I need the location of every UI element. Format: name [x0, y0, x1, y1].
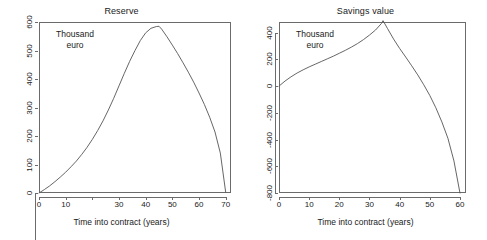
- y-tick-label: 600: [25, 7, 35, 37]
- x-tickmark: [92, 197, 93, 200]
- figure-two-panel-line-charts: Reserve Thousandeuro 0100200300400500600…: [0, 0, 487, 240]
- chart-panel-savings-value: Savings value Thousandeuro 4002000-200-4…: [244, 0, 487, 240]
- y-tick-label: 500: [25, 36, 35, 66]
- y-tickmark: [275, 86, 278, 87]
- x-tick-label: 70: [214, 200, 238, 209]
- x-tickmark: [146, 197, 147, 200]
- y-tick-label: 300: [25, 93, 35, 123]
- annotation-line-1: Thousand: [285, 29, 345, 40]
- x-axis-label-reserve: Time into contract (years): [0, 217, 243, 227]
- x-tickmark: [339, 197, 340, 200]
- x-tickmark: [199, 197, 200, 200]
- y-tick-label: -200: [265, 98, 275, 128]
- annotation-line-2: euro: [285, 40, 345, 51]
- y-tickmark: [275, 140, 278, 141]
- annotation-line-1: Thousand: [45, 29, 105, 40]
- x-tick-label: 50: [418, 200, 442, 209]
- x-tick-label: 10: [54, 200, 78, 209]
- y-tickmark: [275, 193, 278, 194]
- x-tickmark: [39, 197, 40, 200]
- x-tick-label: 0: [27, 200, 51, 209]
- x-tickmark: [430, 197, 431, 200]
- y-tick-label: 200: [25, 121, 35, 151]
- x-tick-label: 10: [297, 200, 321, 209]
- x-tick-label: 0: [267, 200, 291, 209]
- x-tickmark: [460, 197, 461, 200]
- x-tick-label: 40: [134, 200, 158, 209]
- x-axis-label-savings-value: Time into contract (years): [244, 217, 487, 227]
- y-tick-label: -600: [265, 151, 275, 181]
- x-tick-label: 20: [327, 200, 351, 209]
- y-tickmark: [35, 51, 38, 52]
- x-tick-label: 30: [107, 200, 131, 209]
- x-tickmark: [400, 197, 401, 200]
- y-tickmark: [35, 165, 38, 166]
- y-tickmark: [35, 22, 38, 23]
- y-tickmark: [35, 79, 38, 80]
- x-tick-label: 60: [448, 200, 472, 209]
- x-tick-label: 50: [160, 200, 184, 209]
- x-axis-line: [39, 197, 226, 198]
- y-tickmark: [35, 136, 38, 137]
- x-tickmark: [119, 197, 120, 200]
- y-tickmark: [275, 113, 278, 114]
- x-tick-label: 60: [187, 200, 211, 209]
- x-tickmark: [226, 197, 227, 200]
- y-tick-label: 400: [25, 64, 35, 94]
- x-tickmark: [279, 197, 280, 200]
- y-tickmark: [35, 193, 38, 194]
- annotation-line-2: euro: [45, 40, 105, 51]
- chart-panel-reserve: Reserve Thousandeuro 0100200300400500600…: [0, 0, 243, 240]
- y-tick-label: 100: [25, 150, 35, 180]
- x-tickmark: [66, 197, 67, 200]
- y-tickmark: [275, 166, 278, 167]
- y-tickmark: [35, 108, 38, 109]
- x-tickmark: [309, 197, 310, 200]
- annotation-thousand-euro-right: Thousandeuro: [285, 29, 345, 50]
- x-tickmark: [369, 197, 370, 200]
- x-tick-label: 30: [357, 200, 381, 209]
- annotation-thousand-euro-left: Thousandeuro: [45, 29, 105, 50]
- y-tick-label: 0: [265, 71, 275, 101]
- y-tick-label: 200: [265, 44, 275, 74]
- y-tickmark: [275, 59, 278, 60]
- x-tickmark: [172, 197, 173, 200]
- y-tickmark: [275, 33, 278, 34]
- x-tick-label: 40: [388, 200, 412, 209]
